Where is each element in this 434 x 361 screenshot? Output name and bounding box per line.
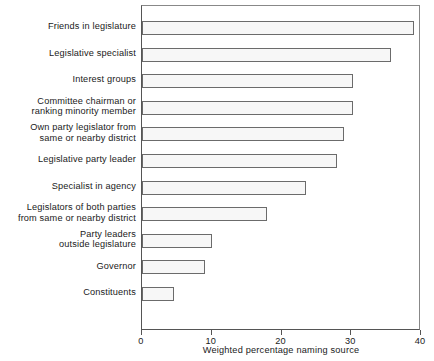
x-tick-mark bbox=[211, 330, 212, 335]
category-label: Legislators of both parties from same or… bbox=[0, 202, 136, 223]
bar bbox=[142, 154, 337, 168]
bar bbox=[142, 260, 205, 274]
bar bbox=[142, 181, 306, 195]
x-tick-mark bbox=[420, 330, 421, 335]
bar bbox=[142, 234, 212, 248]
category-label: Specialist in agency bbox=[0, 181, 136, 192]
bar bbox=[142, 21, 414, 35]
category-label: Own party legislator from same or nearby… bbox=[0, 122, 136, 143]
category-label: Constituents bbox=[0, 287, 136, 298]
plot-area bbox=[141, 5, 420, 330]
category-label: Interest groups bbox=[0, 74, 136, 85]
category-label: Friends in legislature bbox=[0, 21, 136, 32]
bar bbox=[142, 48, 391, 62]
category-label: Committee chairman or ranking minority m… bbox=[0, 96, 136, 117]
category-label-column: Friends in legislatureLegislative specia… bbox=[0, 0, 136, 330]
category-label: Legislative party leader bbox=[0, 154, 136, 165]
category-label: Party leaders outside legislature bbox=[0, 229, 136, 250]
bar bbox=[142, 74, 353, 88]
x-tick-mark bbox=[350, 330, 351, 335]
bar-chart: Friends in legislatureLegislative specia… bbox=[0, 0, 434, 361]
bar bbox=[142, 207, 267, 221]
bar bbox=[142, 287, 174, 301]
category-label: Legislative specialist bbox=[0, 48, 136, 59]
bar bbox=[142, 101, 353, 115]
bar bbox=[142, 127, 344, 141]
x-tick-mark bbox=[141, 330, 142, 335]
x-tick-mark bbox=[281, 330, 282, 335]
x-axis-title: Weighted percentage naming source bbox=[141, 345, 421, 355]
category-label: Governor bbox=[0, 261, 136, 272]
